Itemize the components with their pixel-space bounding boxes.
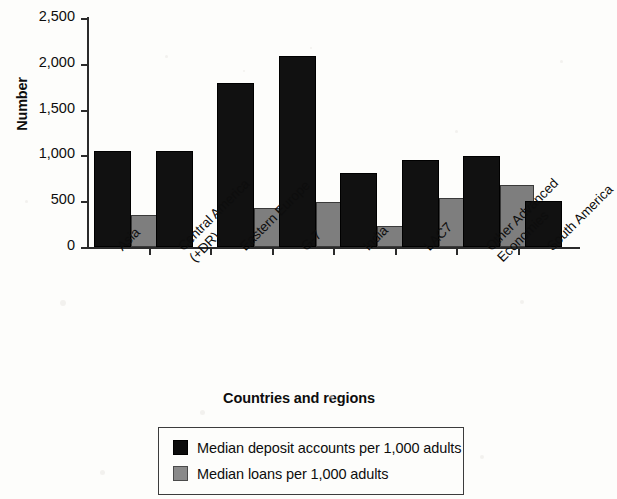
y-axis-line — [87, 17, 89, 248]
y-tick: 2,500 — [81, 18, 88, 20]
legend-item: Median deposit accounts per 1,000 adults — [173, 437, 463, 458]
legend-item: Median loans per 1,000 adults — [173, 463, 463, 484]
legend-swatch-gray — [173, 466, 188, 481]
y-tick: 1,500 — [81, 110, 88, 112]
legend-swatch-dark — [173, 440, 188, 455]
x-tick — [395, 247, 397, 255]
scan-speckle — [60, 300, 66, 306]
legend-label: Median loans per 1,000 adults — [197, 466, 388, 482]
y-tick: 2,000 — [81, 64, 88, 66]
y-tick-label: 2,000 — [5, 54, 75, 70]
y-tick-label: 2,500 — [5, 8, 75, 24]
chart-legend: Median deposit accounts per 1,000 adults… — [158, 427, 464, 495]
y-tick-label: 0 — [5, 237, 75, 253]
scan-speckle — [480, 455, 484, 459]
x-axis-title: Countries and regions — [0, 390, 598, 406]
y-tick-label: 500 — [5, 191, 75, 207]
x-tick — [272, 247, 274, 255]
x-tick — [333, 247, 335, 255]
plot-area: 2,5002,0001,5001,0005000 — [88, 18, 580, 247]
scan-speckle — [100, 470, 105, 475]
legend-label: Median deposit accounts per 1,000 adults — [197, 440, 461, 456]
x-tick — [149, 247, 151, 255]
y-tick-label: 1,000 — [5, 145, 75, 161]
scan-speckle — [520, 300, 524, 304]
scan-speckle — [200, 410, 205, 415]
y-tick-label: 1,500 — [5, 100, 75, 116]
x-tick — [456, 247, 458, 255]
y-tick: 1,000 — [81, 155, 88, 157]
y-tick: 0 — [81, 247, 88, 249]
y-tick: 500 — [81, 201, 88, 203]
